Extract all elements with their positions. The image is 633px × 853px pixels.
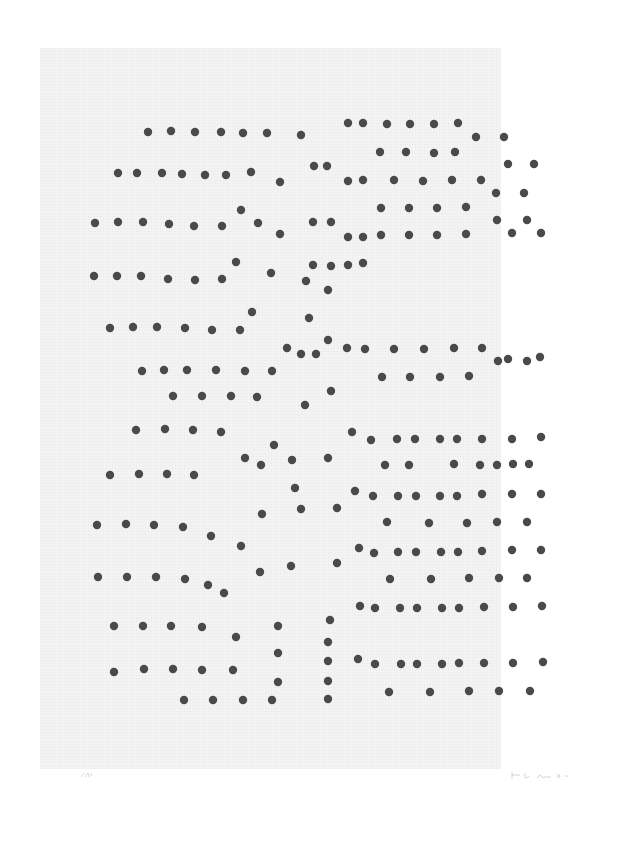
dot [537,546,545,554]
dot [386,575,394,583]
dot [276,178,284,186]
dot [283,344,291,352]
dot [297,131,305,139]
dot [509,603,517,611]
dot [537,229,545,237]
dot [133,169,141,177]
dot [465,574,473,582]
dot [189,426,197,434]
dot [326,616,334,624]
dot [137,272,145,280]
dot [509,460,517,468]
dot [110,622,118,630]
dot [160,366,168,374]
dot [450,460,458,468]
dot [217,428,225,436]
dot [538,602,546,610]
dot [381,461,389,469]
dot [394,492,402,500]
dot [167,127,175,135]
dot [198,623,206,631]
dot [239,129,247,137]
dot [480,659,488,667]
dot [436,435,444,443]
dot [212,366,220,374]
dot [508,435,516,443]
dot [181,575,189,583]
dot [478,490,486,498]
dot [274,622,282,630]
dot [508,546,516,554]
dot [351,487,359,495]
dot [371,604,379,612]
dot [504,355,512,363]
dot [241,454,249,462]
dot [91,219,99,227]
dot [232,633,240,641]
dot [114,218,122,226]
dot [383,518,391,526]
dot [220,589,228,597]
dot [430,120,438,128]
dot [525,460,533,468]
dot [344,261,352,269]
dot [302,277,310,285]
dot [274,678,282,686]
dot [254,219,262,227]
dot [523,216,531,224]
dot [438,660,446,668]
dot [495,574,503,582]
dot [462,230,470,238]
dot [405,204,413,212]
dot [94,573,102,581]
dot [451,148,459,156]
dot [508,490,516,498]
dot [247,168,255,176]
dot [169,392,177,400]
dot [356,602,364,610]
dot [232,258,240,266]
dot [310,162,318,170]
dot [493,461,501,469]
dot [526,687,534,695]
dot [327,218,335,226]
dot [236,326,244,334]
dot [354,655,362,663]
dot [411,435,419,443]
dot [436,492,444,500]
dot [478,344,486,352]
dot [110,668,118,676]
dot [324,286,332,294]
dot [190,222,198,230]
dot [427,575,435,583]
dot [309,218,317,226]
dot [480,603,488,611]
dot [237,206,245,214]
dot [165,220,173,228]
dot [268,696,276,704]
dot [406,373,414,381]
dot [327,262,335,270]
dot [405,231,413,239]
dot [476,461,484,469]
dot [324,638,332,646]
dot [348,428,356,436]
dot [523,574,531,582]
dot [207,532,215,540]
dot [371,660,379,668]
dot [463,519,471,527]
dot [180,696,188,704]
dot [179,523,187,531]
dot [393,435,401,443]
dot [438,604,446,612]
dot [158,169,166,177]
dot [324,695,332,703]
dot [509,659,517,667]
dot [239,696,247,704]
dot [181,324,189,332]
dot [462,203,470,211]
dot [377,204,385,212]
dot [413,660,421,668]
dot [288,456,296,464]
dot [138,367,146,375]
